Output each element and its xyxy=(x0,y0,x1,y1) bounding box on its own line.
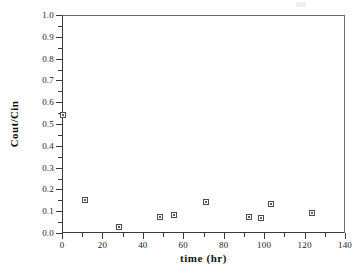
data-point xyxy=(157,214,163,220)
y-tick-minor xyxy=(58,91,62,92)
chart-page: 0.00.10.20.30.40.50.60.70.80.91.0 020406… xyxy=(0,0,363,274)
y-tick-minor xyxy=(58,26,62,27)
y-tick-major xyxy=(56,59,62,60)
y-tick-label: 0.3 xyxy=(42,163,54,173)
y-tick-major xyxy=(56,211,62,212)
x-tick-major xyxy=(264,233,265,239)
y-tick-minor xyxy=(58,157,62,158)
y-axis-title: Cout/Cin xyxy=(8,101,20,148)
y-tick-label: 0.9 xyxy=(42,32,54,42)
data-point xyxy=(116,224,122,230)
x-tick-minor xyxy=(244,233,245,237)
y-tick-major xyxy=(56,168,62,169)
data-point xyxy=(60,112,66,118)
x-tick-label: 80 xyxy=(219,240,228,250)
data-point xyxy=(82,197,88,203)
y-tick-major xyxy=(56,37,62,38)
y-tick-label: 0.1 xyxy=(42,206,54,216)
y-tick-major xyxy=(56,15,62,16)
y-tick-label: 0.4 xyxy=(42,141,54,151)
data-point xyxy=(246,214,252,220)
y-tick-major xyxy=(56,102,62,103)
data-point xyxy=(309,210,315,216)
x-tick-major xyxy=(102,233,103,239)
x-tick-minor xyxy=(82,233,83,237)
x-tick-minor xyxy=(123,233,124,237)
scan-artifact xyxy=(296,2,306,7)
x-tick-minor xyxy=(204,233,205,237)
y-tick-label: 0.6 xyxy=(42,97,54,107)
y-tick-label: 0.8 xyxy=(42,54,54,64)
x-tick-major xyxy=(143,233,144,239)
x-tick-minor xyxy=(325,233,326,237)
y-tick-minor xyxy=(58,222,62,223)
data-point xyxy=(203,199,209,205)
x-tick-label: 60 xyxy=(179,240,188,250)
x-tick-minor xyxy=(163,233,164,237)
x-tick-major xyxy=(183,233,184,239)
y-tick-minor xyxy=(58,200,62,201)
x-tick-major xyxy=(305,233,306,239)
data-point xyxy=(258,215,264,221)
y-tick-minor xyxy=(58,135,62,136)
x-tick-label: 40 xyxy=(138,240,147,250)
x-axis-title: time (hr) xyxy=(62,252,345,264)
plot-area: 0.00.10.20.30.40.50.60.70.80.91.0 020406… xyxy=(62,15,345,233)
y-tick-label: 0.0 xyxy=(42,228,54,238)
y-tick-major xyxy=(56,189,62,190)
data-point xyxy=(171,212,177,218)
x-tick-label: 100 xyxy=(257,240,271,250)
x-tick-label: 140 xyxy=(338,240,352,250)
y-tick-major xyxy=(56,80,62,81)
x-tick-major xyxy=(224,233,225,239)
y-tick-minor xyxy=(58,179,62,180)
y-tick-label: 0.7 xyxy=(42,75,54,85)
y-tick-label: 1.0 xyxy=(42,10,54,20)
data-point xyxy=(268,201,274,207)
x-tick-label: 0 xyxy=(60,240,65,250)
x-tick-label: 120 xyxy=(298,240,312,250)
x-tick-minor xyxy=(284,233,285,237)
y-tick-minor xyxy=(58,70,62,71)
y-tick-label: 0.5 xyxy=(42,119,54,129)
y-tick-major xyxy=(56,146,62,147)
y-tick-label: 0.2 xyxy=(42,184,54,194)
x-tick-major xyxy=(62,233,63,239)
x-tick-major xyxy=(345,233,346,239)
x-tick-label: 20 xyxy=(98,240,107,250)
y-tick-major xyxy=(56,124,62,125)
y-tick-minor xyxy=(58,48,62,49)
